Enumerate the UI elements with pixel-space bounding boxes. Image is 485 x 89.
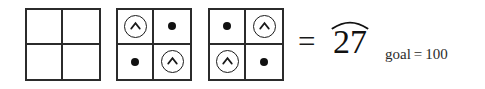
goal-label: goal xyxy=(385,46,411,62)
grid-3-cell-bottom-right[interactable] xyxy=(246,45,282,80)
filled-dot-icon xyxy=(223,22,231,30)
result-number: 27 xyxy=(330,25,370,59)
filled-dot-icon xyxy=(260,58,268,66)
grid-2-cell-top-left[interactable] xyxy=(118,10,154,45)
grid-1-cell-bottom-left[interactable] xyxy=(27,45,63,80)
filled-dot-icon xyxy=(168,22,176,30)
grid-1-cell-top-left[interactable] xyxy=(27,10,63,45)
grid-1-cell-top-right[interactable] xyxy=(63,10,99,45)
puzzle-canvas: = 27 goal=100 xyxy=(0,0,485,89)
grid-1-cell-bottom-right[interactable] xyxy=(63,45,99,80)
circled-caret-up-icon xyxy=(253,15,276,38)
grid-2-cell-top-right[interactable] xyxy=(154,10,190,45)
grid-3-cell-bottom-left[interactable] xyxy=(210,45,246,80)
goal-readout: goal=100 xyxy=(385,47,448,62)
circled-caret-up-icon xyxy=(161,50,184,73)
equals-operator: = xyxy=(298,26,315,57)
filled-dot-icon xyxy=(131,58,139,66)
puzzle-grid-1[interactable] xyxy=(25,8,101,81)
goal-value: 100 xyxy=(425,46,448,62)
result-value-group: 27 xyxy=(330,18,370,64)
goal-equals-operator: = xyxy=(411,46,425,62)
grid-2-cell-bottom-left[interactable] xyxy=(118,45,154,80)
puzzle-grid-2[interactable] xyxy=(116,8,192,81)
circled-caret-up-icon xyxy=(216,50,239,73)
circled-caret-up-icon xyxy=(124,15,147,38)
grid-2-cell-bottom-right[interactable] xyxy=(154,45,190,80)
puzzle-grid-3[interactable] xyxy=(208,8,284,81)
grid-3-cell-top-left[interactable] xyxy=(210,10,246,45)
grid-3-cell-top-right[interactable] xyxy=(246,10,282,45)
